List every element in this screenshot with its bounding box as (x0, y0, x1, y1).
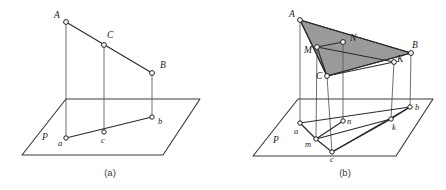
point-a-label: a (294, 126, 298, 136)
point-B-marker (150, 71, 155, 76)
segment-ab (66, 117, 152, 138)
point-k-label: k (392, 122, 396, 132)
segment-am (300, 123, 316, 139)
point-C-marker (102, 43, 107, 48)
point-C-label: C (107, 30, 114, 40)
projector-Cc (327, 76, 332, 152)
point-N-marker (341, 40, 346, 45)
point-b-label: b (158, 116, 162, 126)
projection-figure: ACBacbP(a)ANMBKCanmkbcP(b) (0, 0, 446, 190)
point-m-marker (314, 137, 318, 141)
point-m-label: m (305, 139, 311, 149)
segment-mc (316, 139, 332, 152)
plane-label-p: P (41, 132, 48, 142)
panel-a: ACBacbP(a) (22, 10, 200, 178)
point-A-marker (64, 20, 69, 25)
point-B-label: B (160, 60, 166, 70)
projector-Kk (391, 62, 394, 119)
segment-mn (316, 121, 343, 139)
point-M-marker (315, 45, 320, 50)
plane-label-p: P (272, 135, 279, 145)
point-a-marker (298, 121, 302, 125)
panel-b: ANMBKCanmkbcP(b) (253, 9, 433, 178)
point-a-marker (64, 136, 68, 140)
point-n-marker (341, 119, 345, 123)
point-K-label: K (396, 54, 404, 64)
segment-mk (316, 119, 391, 139)
projector-Mm (316, 47, 317, 139)
point-b-marker (150, 115, 154, 119)
point-b-label: b (415, 102, 419, 112)
point-C-label: C (316, 71, 323, 81)
point-c-label: c (330, 154, 334, 164)
caption-panel-a: (a) (104, 167, 116, 178)
point-c-label: c (101, 135, 105, 145)
point-b-marker (408, 105, 412, 109)
point-c-marker (102, 130, 106, 134)
point-B-label: B (412, 40, 418, 50)
point-N-label: N (349, 33, 357, 43)
point-M-label: M (303, 45, 313, 55)
point-K-marker (392, 60, 397, 65)
point-k-marker (389, 117, 393, 121)
figure-root: ACBacbP(a)ANMBKCanmkbcP(b) (0, 0, 446, 190)
point-A-marker (298, 18, 303, 23)
point-A-label: A (53, 10, 60, 20)
point-A-label: A (288, 9, 295, 19)
point-n-label: n (347, 116, 351, 126)
point-C-marker (325, 74, 330, 79)
point-B-marker (409, 51, 414, 56)
point-a-label: a (58, 138, 62, 148)
caption-panel-b: (b) (339, 167, 351, 178)
